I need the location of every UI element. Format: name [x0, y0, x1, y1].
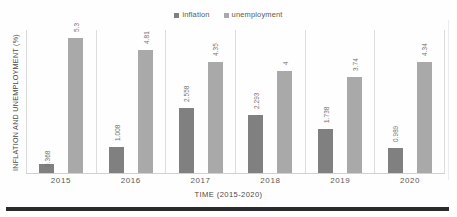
bar-2020-unemployment[interactable]	[417, 62, 432, 173]
x-axis-tick-labels: 2015 2016 2017 2018 2019 2020	[26, 176, 445, 185]
legend-item-inflation[interactable]: inflation	[174, 11, 209, 19]
bar-2017-inflation[interactable]	[179, 108, 194, 173]
category-group-2016: 1.008 4.81	[97, 30, 167, 173]
bar-label-2016-unemployment: 4.81	[143, 31, 150, 44]
bar-wrap-2017-unemployment: 4.35	[208, 30, 223, 173]
legend-swatch-inflation	[174, 13, 179, 18]
bar-wrap-2018-unemployment: 4	[277, 30, 292, 173]
y-axis-title: INFLATION AND UNEMPLOYMENT (%)	[9, 32, 23, 172]
bar-2018-inflation[interactable]	[248, 115, 263, 173]
bar-label-2020-unemployment: 4.34	[421, 43, 428, 56]
bar-2016-inflation[interactable]	[109, 147, 124, 173]
category-group-2017: 2.558 4.35	[166, 30, 236, 173]
bar-2015-unemployment[interactable]	[68, 38, 83, 173]
bar-2020-inflation[interactable]	[388, 148, 403, 173]
bar-label-2019-inflation: 1.738	[323, 106, 330, 123]
x-axis-line	[26, 173, 445, 174]
plot-inner: 0.368 5.3 1.008 4.81	[27, 30, 445, 173]
bar-label-2020-inflation: 0.989	[392, 125, 399, 142]
bar-label-2018-inflation: 2.293	[253, 92, 260, 109]
bottom-rule	[6, 207, 449, 211]
bar-wrap-2019-inflation: 1.738	[318, 30, 333, 173]
bar-2019-unemployment[interactable]	[347, 77, 362, 173]
category-group-2015: 0.368 5.3	[27, 30, 97, 173]
bar-wrap-2016-unemployment: 4.81	[138, 30, 153, 173]
legend-item-unemployment[interactable]: unemployment	[224, 11, 283, 19]
bar-wrap-2016-inflation: 1.008	[109, 30, 124, 173]
bar-2016-unemployment[interactable]	[138, 50, 153, 173]
category-group-2020: 0.989 4.34	[375, 30, 445, 173]
chart-legend: inflation unemployment	[0, 8, 457, 22]
category-group-2018: 2.293 4	[236, 30, 306, 173]
x-tick-2019: 2019	[305, 176, 375, 185]
bar-wrap-2018-inflation: 2.293	[248, 30, 263, 173]
bar-wrap-2020-unemployment: 4.34	[417, 30, 432, 173]
bar-wrap-2015-unemployment: 5.3	[68, 30, 83, 173]
x-tick-2018: 2018	[235, 176, 305, 185]
bar-wrap-2017-inflation: 2.558	[179, 30, 194, 173]
bar-label-2016-inflation: 1.008	[114, 125, 121, 142]
bar-2019-inflation[interactable]	[318, 129, 333, 173]
bar-label-2015-unemployment: 5.3	[73, 23, 80, 32]
legend-label-inflation: inflation	[182, 11, 209, 19]
y-axis-title-text: INFLATION AND UNEMPLOYMENT (%)	[12, 33, 21, 170]
bar-label-2018-unemployment: 4	[282, 61, 289, 65]
category-group-2019: 1.738 3.74	[306, 30, 376, 173]
plot-area: 0.368 5.3 1.008 4.81	[26, 30, 445, 173]
bar-chart: inflation unemployment INFLATION AND UNE…	[0, 0, 457, 217]
x-tick-2016: 2016	[96, 176, 166, 185]
bar-label-2017-inflation: 2.558	[183, 85, 190, 102]
x-tick-2015: 2015	[26, 176, 96, 185]
x-tick-2017: 2017	[166, 176, 236, 185]
bar-wrap-2020-inflation: 0.989	[388, 30, 403, 173]
legend-swatch-unemployment	[224, 13, 229, 18]
bar-wrap-2015-inflation: 0.368	[39, 30, 54, 173]
bar-label-2015-inflation: 0.368	[44, 151, 51, 168]
x-tick-2020: 2020	[375, 176, 445, 185]
bar-label-2019-unemployment: 3.74	[352, 59, 359, 72]
bar-wrap-2019-unemployment: 3.74	[347, 30, 362, 173]
figure-right-edge	[448, 20, 449, 180]
bar-2017-unemployment[interactable]	[208, 62, 223, 173]
bar-label-2017-unemployment: 4.35	[212, 43, 219, 56]
bar-2018-unemployment[interactable]	[277, 71, 292, 173]
legend-label-unemployment: unemployment	[232, 11, 283, 19]
x-axis-title: TIME (2015-2020)	[0, 190, 457, 199]
